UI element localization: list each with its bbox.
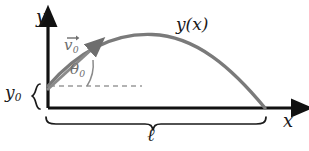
initial-velocity-label: v0 [64, 38, 79, 54]
range-label: ℓ [147, 126, 155, 144]
launch-angle-label: θ0 [70, 62, 85, 78]
trajectory-label-arg: (x) [186, 14, 209, 34]
height-brace [32, 84, 40, 109]
trajectory-label-fn: y [176, 14, 186, 34]
initial-velocity-subscript: 0 [73, 44, 79, 55]
initial-height-symbol: y [5, 82, 15, 102]
initial-height-subscript: 0 [15, 91, 22, 103]
initial-velocity-symbol: v [64, 36, 72, 54]
launch-angle-symbol: θ [70, 60, 79, 78]
x-axis-label: x [283, 112, 293, 130]
range-brace [46, 117, 266, 130]
launch-angle-subscript: 0 [79, 68, 85, 79]
y-axis-label: y [36, 8, 46, 26]
initial-height-label: y0 [5, 84, 22, 103]
trajectory-label: y(x) [176, 16, 208, 33]
launch-angle-arc [87, 60, 93, 86]
projectile-motion-figure: y x y(x) y0 v0 θ0 ℓ [0, 0, 309, 151]
